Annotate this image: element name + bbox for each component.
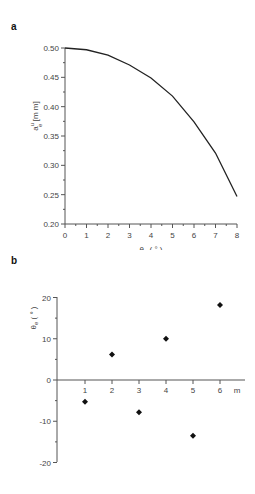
x-axis-title: m: [234, 386, 241, 395]
x-tick-label: 5: [191, 386, 196, 395]
x-tick-label: 4: [164, 386, 169, 395]
data-point: [190, 433, 196, 439]
y-tick-label: -10: [39, 417, 51, 426]
y-tick-label: -20: [39, 459, 51, 468]
data-point: [136, 409, 142, 415]
data-point: [82, 399, 88, 405]
scatter-chart-b: -20-1001020123456mθe ( ° ): [0, 0, 255, 494]
y-tick-label: 20: [42, 294, 51, 303]
x-tick-label: 3: [137, 386, 142, 395]
x-tick-label: 1: [83, 386, 88, 395]
x-tick-label: 6: [218, 386, 223, 395]
y-axis-title: θe ( ° ): [29, 306, 39, 329]
data-point: [217, 302, 223, 308]
y-tick-label: 10: [42, 335, 51, 344]
y-tick-label: 0: [47, 376, 52, 385]
data-point: [163, 336, 169, 342]
data-point: [109, 351, 115, 357]
svg-text:θe ( ° ): θe ( ° ): [29, 306, 39, 329]
x-tick-label: 2: [110, 386, 115, 395]
